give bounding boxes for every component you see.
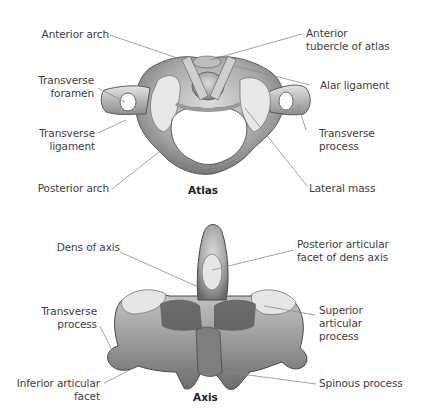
label-lateral-mass: Lateral mass xyxy=(309,182,375,195)
label-superior-articular-process: Superior articular process xyxy=(319,304,363,343)
bone-illustrations xyxy=(0,0,427,414)
label-line: tubercle of atlas xyxy=(306,40,390,53)
label-line: Transverse xyxy=(38,74,94,87)
label-transverse-foramen: Transverse foramen xyxy=(38,74,94,100)
vertebrae-diagram: Anterior arch Anterior tubercle of atlas… xyxy=(0,0,427,414)
label-line: Posterior articular xyxy=(297,238,389,251)
label-line: Inferior articular xyxy=(17,377,100,390)
label-inferior-articular-facet: Inferior articular facet xyxy=(17,377,100,403)
label-alar-ligament: Alar ligament xyxy=(320,79,389,92)
label-line: facet xyxy=(17,390,100,403)
label-transverse-ligament: Transverse ligament xyxy=(39,127,95,153)
label-line: ligament xyxy=(39,140,95,153)
label-spinous-process: Spinous process xyxy=(319,377,403,390)
caption-axis: Axis xyxy=(193,391,218,403)
label-line: Superior xyxy=(319,304,363,317)
atlas-bone xyxy=(101,56,310,174)
label-line: Anterior xyxy=(306,27,390,40)
label-line: Transverse xyxy=(319,127,375,140)
label-line: facet of dens axis xyxy=(297,251,389,264)
label-atlas-transverse-process: Transverse process xyxy=(319,127,375,153)
label-line: Transverse xyxy=(41,305,97,318)
label-line: foramen xyxy=(38,87,94,100)
label-axis-transverse-process: Transverse process xyxy=(41,305,97,331)
label-posterior-arch: Posterior arch xyxy=(38,182,109,195)
label-line: process xyxy=(319,140,375,153)
label-line: process xyxy=(41,318,97,331)
axis-bone xyxy=(108,225,307,390)
label-line: articular xyxy=(319,317,363,330)
label-line: Transverse xyxy=(39,127,95,140)
label-anterior-tubercle-of-atlas: Anterior tubercle of atlas xyxy=(306,27,390,53)
label-anterior-arch: Anterior arch xyxy=(42,28,109,41)
caption-atlas: Atlas xyxy=(188,184,218,196)
label-posterior-articular-facet: Posterior articular facet of dens axis xyxy=(297,238,389,264)
label-line: process xyxy=(319,330,363,343)
label-dens-of-axis: Dens of axis xyxy=(57,241,120,254)
